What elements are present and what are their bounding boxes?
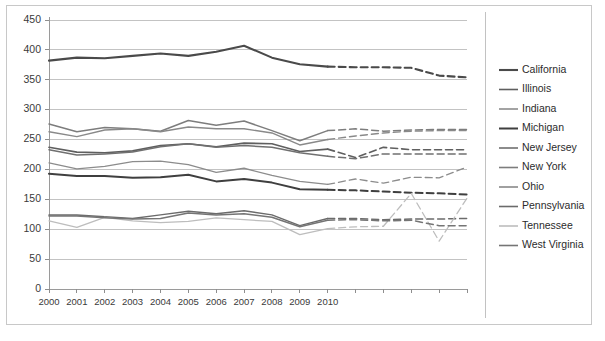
series-line-dashed [328,129,467,131]
series-line-dashed [328,190,467,195]
series-line-solid [49,120,328,140]
legend-item-pennsylvania[interactable]: Pennsylvania [499,199,585,211]
y-tick-label: 200 [23,162,41,174]
legend-item-new-jersey[interactable]: New Jersey [499,141,578,153]
y-tick-label: 400 [23,43,41,55]
legend-item-california[interactable]: California [499,63,567,75]
legend-label: Ohio [522,180,544,192]
x-tick-label: 2006 [206,296,227,307]
legend-label: California [522,63,567,75]
legend-item-new-york[interactable]: New York [499,160,567,172]
x-tick-label: 2003 [122,296,143,307]
chart-frame: 2000200120022003200420052006200720082009… [6,5,592,325]
line-chart: 2000200120022003200420052006200720082009… [7,6,591,324]
series-line-solid [49,161,328,184]
x-axis-labels: 2000200120022003200420052006200720082009… [38,289,467,307]
y-tick-label: 450 [23,13,41,25]
x-tick-label: 2002 [94,296,115,307]
legend-item-ohio[interactable]: Ohio [499,180,544,192]
legend-item-indiana[interactable]: Indiana [499,102,557,114]
x-tick-label: 2007 [233,296,254,307]
series-illinois [49,143,467,157]
x-tick-label: 2000 [38,296,59,307]
legend-label: New Jersey [522,141,578,153]
y-tick-label: 300 [23,102,41,114]
legend-item-michigan[interactable]: Michigan [499,121,564,133]
y-tick-label: 150 [23,192,41,204]
series-michigan [49,174,467,195]
legend-label: Tennessee [522,219,573,231]
legend-item-west-virginia[interactable]: West Virginia [499,238,584,250]
legend-label: Illinois [522,82,551,94]
x-tick-label: 2008 [261,296,282,307]
legend-label: Michigan [522,121,564,133]
y-tick-label: 0 [35,282,41,294]
series-line-dashed [328,154,467,159]
legend-label: Pennsylvania [522,199,585,211]
y-tick-label: 100 [23,222,41,234]
series-line-dashed [328,220,467,226]
x-tick-label: 2004 [150,296,171,307]
series-california [49,46,467,78]
series-line-solid [49,143,328,153]
legend-label: New York [522,160,567,172]
legend-item-illinois[interactable]: Illinois [499,82,551,94]
x-tick-label: 2009 [289,296,310,307]
series-line-solid [49,174,328,190]
series-new-jersey [49,144,467,159]
series-line-dashed [328,147,467,157]
y-tick-label: 250 [23,132,41,144]
legend-label: West Virginia [522,238,584,250]
y-tick-label: 50 [29,252,41,264]
series-line-dashed [328,131,467,140]
series-line-dashed [328,193,467,241]
y-axis-labels: 050100150200250300350400450 [23,13,41,294]
legend: CaliforniaIllinoisIndianaMichiganNew Jer… [499,63,585,251]
series-line-dashed [328,218,467,219]
chart-page: 2000200120022003200420052006200720082009… [0,0,605,341]
x-tick-label: 2010 [317,296,338,307]
y-tick-label: 350 [23,73,41,85]
legend-label: Indiana [522,102,557,114]
series-group [49,46,467,241]
series-line-dashed [328,67,467,78]
legend-item-tennessee[interactable]: Tennessee [499,219,573,231]
series-line-solid [49,144,328,157]
x-tick-label: 2001 [66,296,87,307]
grid-lines [45,20,467,289]
x-tick-label: 2005 [178,296,199,307]
series-line-solid [49,46,328,67]
